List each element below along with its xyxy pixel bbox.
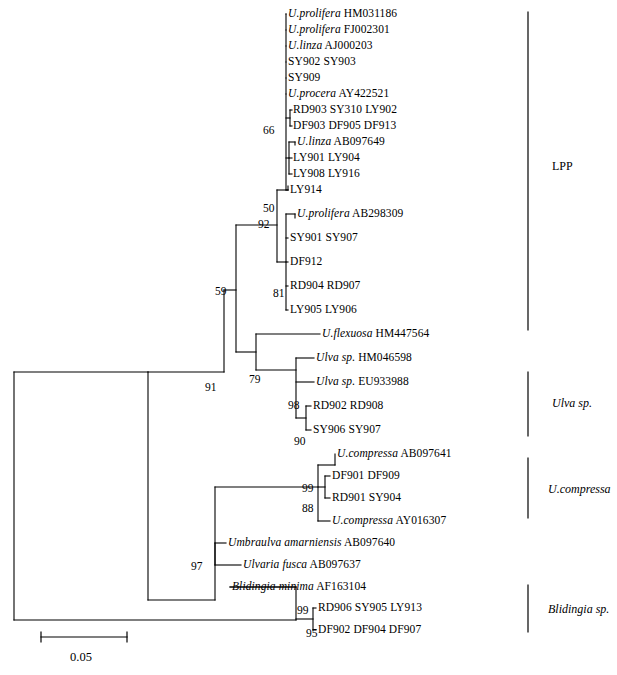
taxon-label: RD906 SY905 LY913 [318,602,422,614]
taxon-label: LY901 LY904 [293,152,360,164]
taxon-scientific-name: Umbraulva amarniensis [228,536,342,548]
taxon-scientific-name: U.linza [288,39,322,51]
taxon-scientific-name: Ulvaria fusca [243,558,307,570]
bootstrap-support-value: 81 [273,288,285,300]
taxon-label: SY909 [288,72,320,84]
bootstrap-support-value: 92 [258,219,270,231]
taxon-scientific-name: U.prolifera [297,207,350,219]
bootstrap-support-value: 97 [191,561,203,573]
clade-label-u_compressa: U.compressa [548,483,611,495]
bootstrap-support-value: 79 [249,374,261,386]
bootstrap-support-value: 59 [215,286,227,298]
taxon-label: U.linza AJ000203 [288,40,373,52]
taxon-accession: AY016307 [395,514,446,526]
taxon-accession: RD903 SY310 LY902 [293,103,397,115]
taxon-label: Ulva sp. HM046598 [316,352,412,364]
taxon-label: U.procera AY422521 [288,88,389,100]
taxon-label: Ulva sp. EU933988 [316,376,409,388]
bootstrap-support-value: 95 [306,628,318,640]
taxon-accession: LY905 LY906 [290,303,357,315]
bootstrap-support-value: 50 [263,203,275,215]
taxon-label: SY906 SY907 [313,424,381,436]
taxon-accession: FJ002301 [344,23,390,35]
taxon-accession: AF163104 [316,580,366,592]
phylogenetic-tree-figure: U.prolifera HM031186U.prolifera FJ002301… [0,0,617,675]
taxon-accession: SY902 SY903 [288,55,356,67]
taxon-label: U.compressa AY016307 [332,515,446,527]
clade-label-blidingia_sp: Blidingia sp. [548,603,609,615]
taxon-label: DF901 DF909 [332,470,400,482]
taxon-scientific-name: U.compressa [337,447,398,459]
taxon-label: RD903 SY310 LY902 [293,104,397,116]
taxon-label: U.prolifera HM031186 [288,8,397,20]
taxon-label: U.compressa AB097641 [337,448,452,460]
taxon-label: RD904 RD907 [290,280,360,292]
taxon-accession: HM031186 [344,7,397,19]
bootstrap-support-value: 91 [205,382,217,394]
taxon-label: RD901 SY904 [332,492,401,504]
scale-bar-label: 0.05 [70,651,92,664]
taxon-scientific-name: U.prolifera [288,23,341,35]
taxon-label: SY901 SY907 [290,232,358,244]
taxon-scientific-name: U.prolifera [288,7,341,19]
taxon-label: Ulvaria fusca AB097637 [243,559,361,571]
bootstrap-support-value: 98 [288,400,300,412]
taxon-scientific-name: Blidingia minima [232,580,314,592]
taxon-accession: AB097641 [400,447,451,459]
taxon-accession: HM447564 [376,327,430,339]
clade-label-ulva_sp: Ulva sp. [552,397,592,409]
taxon-label: U.linza AB097649 [297,136,385,148]
taxon-accession: EU933988 [358,375,409,387]
taxon-scientific-name: U.procera [288,87,336,99]
taxon-label: U.prolifera AB298309 [297,208,403,220]
taxon-scientific-name: Ulva sp. [316,351,355,363]
taxon-accession: DF903 DF905 DF913 [293,119,396,131]
taxon-accession: RD901 SY904 [332,491,401,503]
taxon-label: SY902 SY903 [288,56,356,68]
taxon-label: U.prolifera FJ002301 [288,24,390,36]
taxon-accession: RD906 SY905 LY913 [318,601,422,613]
taxon-accession: AB097640 [344,536,395,548]
taxon-label: U.flexuosa HM447564 [322,328,429,340]
taxon-accession: AJ000203 [325,39,373,51]
taxon-accession: DF912 [290,255,322,267]
taxon-accession: AB298309 [352,207,403,219]
taxon-accession: RD904 RD907 [290,279,360,291]
taxon-label: DF912 [290,256,322,268]
taxon-scientific-name: U.flexuosa [322,327,373,339]
taxon-label: LY905 LY906 [290,304,357,316]
taxon-accession: SY909 [288,71,320,83]
taxon-accession: HM046598 [358,351,412,363]
taxon-accession: AB097637 [310,558,361,570]
taxon-label: LY914 [290,184,322,196]
bootstrap-support-value: 99 [297,605,309,617]
taxon-accession: SY901 SY907 [290,231,358,243]
taxon-accession: SY906 SY907 [313,423,381,435]
taxon-accession: RD902 RD908 [313,399,383,411]
taxon-scientific-name: Ulva sp. [316,375,355,387]
bootstrap-support-value: 99 [302,483,314,495]
taxon-label: DF902 DF904 DF907 [318,624,421,636]
taxon-label: LY908 LY916 [293,168,360,180]
taxon-label: Umbraulva amarniensis AB097640 [228,537,395,549]
taxon-label: RD902 RD908 [313,400,383,412]
taxon-scientific-name: U.linza [297,135,331,147]
taxon-label: DF903 DF905 DF913 [293,120,396,132]
clade-label-lpp: LPP [552,160,573,172]
taxon-accession: AY422521 [338,87,389,99]
bootstrap-support-value: 66 [263,125,275,137]
bootstrap-support-value: 90 [294,436,306,448]
taxon-accession: LY908 LY916 [293,167,360,179]
taxon-accession: LY901 LY904 [293,151,360,163]
taxon-accession: AB097649 [334,135,385,147]
taxon-accession: DF902 DF904 DF907 [318,623,421,635]
taxon-scientific-name: U.compressa [332,514,393,526]
taxon-accession: LY914 [290,183,322,195]
taxon-accession: DF901 DF909 [332,469,400,481]
taxon-label: Blidingia minima AF163104 [232,581,366,593]
bootstrap-support-value: 88 [302,503,314,515]
tree-branches [0,0,617,675]
